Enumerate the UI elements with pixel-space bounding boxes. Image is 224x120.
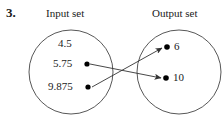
worksheet-problem-figure: 3. Input set Output set 4.5 5.75 9.875 6…: [0, 0, 224, 120]
input-dot-5.75: [84, 61, 89, 66]
mapping-arrow-5.75-to-10: [90, 64, 161, 78]
mapping-arrow-9.875-to-6: [92, 48, 162, 87]
output-dot-10: [163, 75, 169, 81]
input-set-label: Input set: [46, 8, 84, 19]
input-value-5.75: 5.75: [53, 58, 72, 69]
output-set-label: Output set: [152, 8, 198, 19]
input-value-9.875: 9.875: [48, 81, 73, 92]
output-value-10: 10: [173, 72, 184, 83]
output-dot-6: [164, 44, 170, 50]
problem-number: 3.: [6, 6, 16, 19]
input-dot-9.875: [85, 84, 90, 89]
input-value-4.5: 4.5: [58, 38, 72, 49]
output-value-6: 6: [174, 41, 180, 52]
